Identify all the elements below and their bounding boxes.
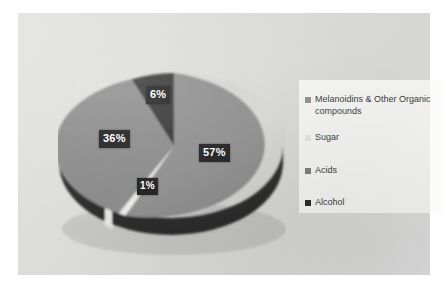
- pie-chart-screenshot: 57% 36% 1% 6% Melanoidins & Other Organi…: [0, 0, 446, 297]
- legend-item-alcohol[interactable]: Alcohol: [305, 197, 443, 209]
- legend-label: Alcohol: [315, 197, 345, 209]
- legend-item-melanoidins[interactable]: Melanoidins & Other Organic compounds: [305, 94, 443, 117]
- legend-item-sugar[interactable]: Sugar: [305, 132, 443, 144]
- legend-label: Acids: [315, 165, 337, 177]
- legend-item-acids[interactable]: Acids: [305, 165, 443, 177]
- legend-label: Sugar: [315, 132, 339, 144]
- data-label-sugar: 1%: [137, 178, 158, 195]
- legend-swatch-icon: [305, 97, 311, 103]
- legend-swatch-icon: [305, 200, 311, 206]
- legend-swatch-icon: [305, 168, 311, 174]
- chart-legend: Melanoidins & Other Organic compounds Su…: [299, 80, 444, 213]
- chart-panel: 57% 36% 1% 6% Melanoidins & Other Organi…: [18, 13, 430, 275]
- pie-chart-graphic: [58, 51, 286, 256]
- pie-top-shading: [59, 73, 286, 219]
- pie-svg: [58, 51, 286, 256]
- legend-label: Melanoidins & Other Organic compounds: [315, 94, 443, 117]
- data-label-alcohol: 6%: [146, 86, 170, 104]
- data-label-melanoidins: 57%: [199, 144, 230, 162]
- data-label-acids: 36%: [99, 130, 130, 148]
- legend-swatch-icon: [305, 135, 311, 141]
